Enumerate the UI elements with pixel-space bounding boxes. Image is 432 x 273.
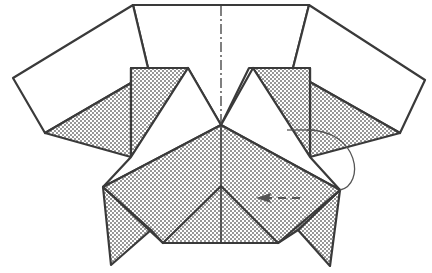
diagram-canvas xyxy=(0,0,432,273)
origami-diagram xyxy=(0,0,432,273)
